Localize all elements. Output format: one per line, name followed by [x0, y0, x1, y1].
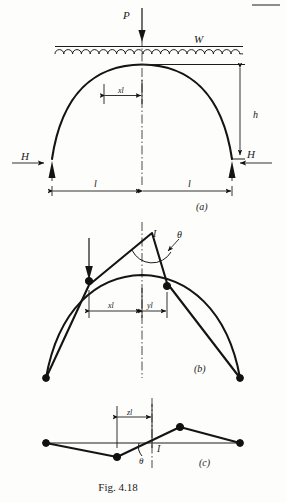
point-load-arrow-P	[138, 8, 145, 42]
span-dimension-a	[52, 186, 232, 196]
node-support-right-b	[237, 375, 244, 382]
label-span-left-l: l	[94, 178, 97, 189]
zl-dimension-c	[117, 404, 152, 448]
caption-panel-b: (b)	[194, 363, 206, 375]
label-yl-b: yl	[146, 301, 154, 310]
xl-yl-dimension-b	[89, 288, 167, 318]
label-point-I-c: I	[156, 443, 161, 454]
caption-panel-a: (a)	[196, 201, 208, 213]
label-rise-h: h	[253, 109, 258, 120]
node-trough-c	[113, 453, 120, 460]
influence-line-c	[46, 427, 240, 457]
label-theta-b: θ	[177, 229, 182, 240]
node-right-c	[237, 440, 244, 447]
theta-leader-arrow-b	[168, 239, 179, 251]
node-peak-c	[176, 423, 183, 430]
arch-curve-b	[46, 275, 240, 378]
label-thrust-right-H: H	[246, 148, 256, 160]
label-span-right-l: l	[188, 178, 191, 189]
displaced-mechanism-b	[46, 233, 240, 378]
arch-figure-svg: P W xl h H H l l (a) I θ xl yl (b) zl θ …	[0, 0, 286, 503]
figure-caption: Fig. 4.18	[98, 481, 138, 493]
point-load-arrow-b	[85, 238, 93, 280]
panel-a	[12, 5, 280, 196]
label-point-load-P: P	[122, 9, 130, 21]
label-thrust-left-H: H	[20, 150, 30, 162]
label-theta-c: θ	[139, 456, 144, 466]
support-reaction-right	[229, 161, 236, 181]
node-support-left-b	[43, 375, 50, 382]
node-load-point-b	[85, 277, 92, 284]
label-udl-W: W	[194, 33, 204, 45]
label-hinge-I-b: I	[152, 228, 157, 239]
figure-container: P W xl h H H l l (a) I θ xl yl (b) zl θ …	[0, 0, 286, 503]
label-xl-b: xl	[107, 301, 115, 310]
panel-b	[43, 222, 244, 381]
label-zl-c: zl	[126, 408, 133, 417]
label-xl-a: xl	[117, 86, 125, 95]
caption-panel-c: (c)	[199, 457, 211, 469]
angle-arc-theta-b	[132, 250, 171, 263]
node-left-c	[43, 440, 50, 447]
support-reaction-left	[49, 161, 56, 181]
node-right-segment-b	[163, 282, 170, 289]
udl-scallop-symbol	[55, 50, 243, 54]
